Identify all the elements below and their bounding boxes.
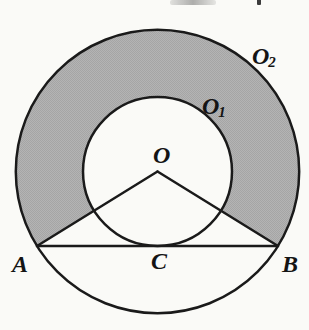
label-inner-circle-o1: O1	[202, 94, 226, 118]
scan-artifact-tick	[257, 0, 261, 5]
label-o2-base: O	[252, 43, 269, 69]
label-center-o: O	[153, 143, 170, 167]
label-o2-subscript: 2	[268, 54, 276, 70]
label-point-b: B	[282, 252, 298, 276]
label-o1-base: O	[202, 93, 219, 119]
label-point-c: C	[151, 249, 167, 273]
label-point-a: A	[12, 252, 28, 276]
label-outer-circle-o2: O2	[252, 44, 276, 68]
label-o1-subscript: 1	[218, 104, 226, 120]
figure-canvas: O O1 O2 A B C	[0, 0, 309, 330]
scan-artifact-smudge	[170, 0, 216, 5]
